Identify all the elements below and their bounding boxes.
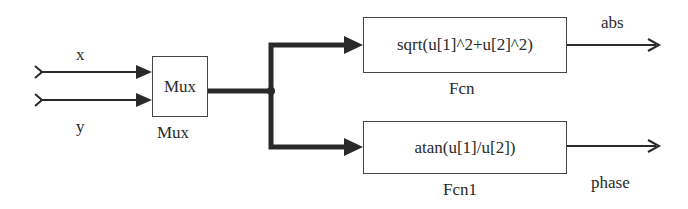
fcn-expression: sqrt(u[1]^2+u[2]^2) bbox=[397, 35, 533, 55]
fcn-block[interactable]: sqrt(u[1]^2+u[2]^2) bbox=[363, 17, 567, 73]
fcn-block-name: Fcn bbox=[449, 80, 475, 97]
fcn1-block[interactable]: atan(u[1]/u[2]) bbox=[363, 121, 567, 174]
input-label-y: y bbox=[76, 118, 85, 135]
output-label-phase: phase bbox=[591, 174, 630, 191]
output-label-abs: abs bbox=[601, 14, 624, 31]
mux-block-text: Mux bbox=[164, 77, 196, 97]
fcn1-block-name: Fcn1 bbox=[443, 181, 477, 198]
input-label-x: x bbox=[76, 46, 85, 63]
diagram-wires bbox=[0, 0, 688, 209]
mux-block-name: Mux bbox=[157, 124, 189, 141]
mux-block[interactable]: Mux bbox=[152, 56, 208, 117]
fcn1-expression: atan(u[1]/u[2]) bbox=[414, 138, 515, 158]
